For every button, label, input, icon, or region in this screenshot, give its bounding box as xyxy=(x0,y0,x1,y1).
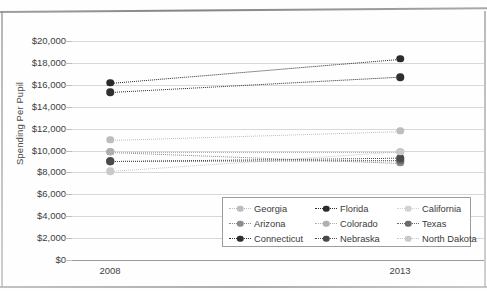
data-point-marker xyxy=(106,148,114,156)
legend-key-icon xyxy=(397,219,419,228)
y-axis-tick-label: $12,000 xyxy=(0,123,66,134)
y-axis-tick-mark xyxy=(65,260,72,261)
y-axis-tick-mark xyxy=(65,129,72,130)
y-axis-tick-mark xyxy=(65,238,72,239)
legend-item-label: Georgia xyxy=(254,204,287,214)
legend-item-label: Nebraska xyxy=(340,234,380,244)
y-axis-tick-mark xyxy=(65,194,72,195)
legend-item-label: Colorado xyxy=(340,219,378,229)
legend-item-north-dakota[interactable]: North Dakota xyxy=(397,234,475,244)
legend-item-connecticut[interactable]: Connecticut xyxy=(229,234,315,244)
y-axis-tick-mark xyxy=(65,151,72,152)
y-axis-tick-mark xyxy=(65,85,72,86)
page-edge-bottom xyxy=(0,286,487,288)
data-point-marker xyxy=(396,73,404,81)
legend-item-florida[interactable]: Florida xyxy=(315,204,397,214)
legend-key-icon xyxy=(229,219,251,228)
data-point-marker xyxy=(396,148,404,156)
y-axis-tick-label: $2,000 xyxy=(0,232,66,243)
series-line-segment xyxy=(110,152,400,173)
y-axis-tick-label: $18,000 xyxy=(0,57,66,68)
chart-container: Spending Per Pupil $20,000$18,000$16,000… xyxy=(0,0,487,291)
legend-item-label: Arizona xyxy=(254,219,286,229)
data-point-marker xyxy=(396,154,404,162)
data-point-marker xyxy=(106,168,114,176)
legend-key-icon xyxy=(315,204,337,213)
legend-key-icon xyxy=(397,204,419,213)
y-axis-tick-label: $4,000 xyxy=(0,210,66,221)
y-axis-tick-mark xyxy=(65,107,72,108)
data-point-marker xyxy=(396,127,404,135)
legend-item-california[interactable]: California xyxy=(397,204,475,214)
data-point-marker xyxy=(106,136,114,144)
page-edge-top xyxy=(0,7,487,13)
y-axis-tick-mark xyxy=(65,216,72,217)
y-axis-tick-label: $14,000 xyxy=(0,101,66,112)
gridline xyxy=(72,260,484,261)
x-axis-tick-label: 2013 xyxy=(389,265,410,276)
y-axis-tick-label: $0 xyxy=(0,254,66,265)
legend-key-icon xyxy=(229,204,251,213)
y-axis-tick-label: $6,000 xyxy=(0,188,66,199)
y-axis-tick-label: $10,000 xyxy=(0,145,66,156)
data-point-marker xyxy=(396,55,404,63)
legend-key-icon xyxy=(397,234,419,243)
data-point-marker xyxy=(106,89,114,97)
legend-key-icon xyxy=(315,219,337,228)
data-point-marker xyxy=(106,158,114,166)
y-axis-tick-mark xyxy=(65,41,72,42)
legend-item-georgia[interactable]: Georgia xyxy=(229,204,315,214)
data-point-marker xyxy=(106,79,114,87)
y-axis-tick-label: $16,000 xyxy=(0,79,66,90)
legend-item-colorado[interactable]: Colorado xyxy=(315,219,397,229)
legend-item-label: Texas xyxy=(422,219,446,229)
legend-item-nebraska[interactable]: Nebraska xyxy=(315,234,397,244)
legend-item-arizona[interactable]: Arizona xyxy=(229,219,315,229)
y-axis-tick-mark xyxy=(65,63,72,64)
y-axis-tick-label: $8,000 xyxy=(0,166,66,177)
legend-item-label: North Dakota xyxy=(422,234,477,244)
page-edge-right xyxy=(484,11,486,287)
legend-key-icon xyxy=(315,234,337,243)
legend-item-label: Connecticut xyxy=(254,234,303,244)
legend-key-icon xyxy=(229,234,251,243)
legend-item-texas[interactable]: Texas xyxy=(397,219,475,229)
legend-item-label: Florida xyxy=(340,204,368,214)
y-axis-tick-mark xyxy=(65,172,72,173)
x-axis-tick-label: 2008 xyxy=(99,265,120,276)
y-axis-tick-label: $20,000 xyxy=(0,35,66,46)
chart-legend: GeorgiaFloridaCaliforniaArizonaColoradoT… xyxy=(222,197,471,247)
legend-item-label: California xyxy=(422,204,461,214)
